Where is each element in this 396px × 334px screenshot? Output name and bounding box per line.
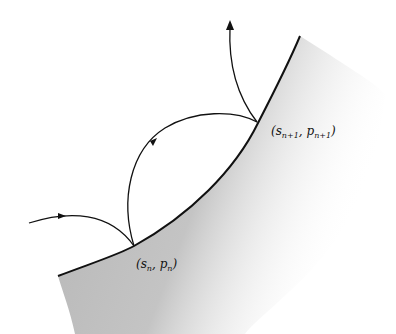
arrow-icon xyxy=(58,213,66,219)
diagram-canvas xyxy=(0,0,396,334)
incoming-trajectory xyxy=(29,216,134,246)
outgoing-trajectory xyxy=(230,27,257,122)
arrow-icon xyxy=(226,20,234,30)
point-label-n-plus-1: (sn+1, pn+1) xyxy=(271,124,336,140)
billiard-diagram: (sn, pn) (sn+1, pn+1) xyxy=(0,0,396,334)
point-label-n: (sn, pn) xyxy=(136,257,177,273)
shaded-region xyxy=(58,36,385,334)
